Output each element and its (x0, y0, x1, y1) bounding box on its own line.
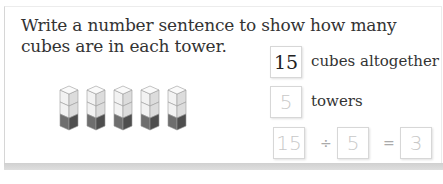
panel-shadow (4, 163, 443, 170)
cube-stack-icon (85, 84, 107, 132)
cube-tower (85, 84, 107, 132)
cube-stack-icon (166, 84, 188, 132)
cube-tower (58, 84, 80, 132)
cube-stack-icon (112, 84, 134, 132)
dividend-input[interactable]: 15 (273, 127, 305, 159)
towers-label: towers (311, 92, 363, 110)
divide-operator: ÷ (320, 135, 332, 151)
cube-tower (166, 84, 188, 132)
cube-stack-icon (58, 84, 80, 132)
equals-operator: = (383, 135, 395, 151)
cube-tower (139, 84, 161, 132)
cube-tower (112, 84, 134, 132)
cube-towers-illustration (58, 84, 188, 132)
quotient-input[interactable]: 3 (400, 127, 432, 159)
divisor-input[interactable]: 5 (337, 127, 369, 159)
total-cubes-label: cubes altogether (311, 52, 439, 70)
cube-stack-icon (139, 84, 161, 132)
towers-count-input[interactable]: 5 (270, 86, 302, 118)
total-cubes-box: 15 (270, 46, 302, 78)
question-prompt: Write a number sentence to show how many… (21, 15, 441, 57)
